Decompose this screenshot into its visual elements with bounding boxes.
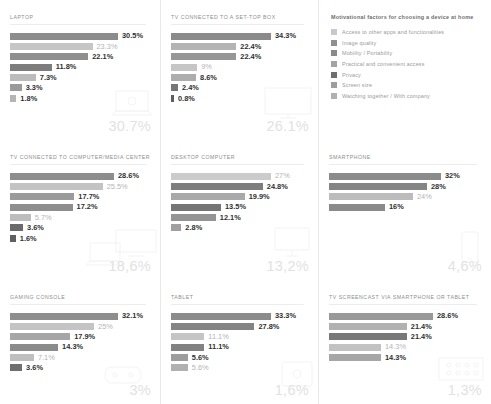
bar-row: 14.3%	[329, 343, 483, 351]
bar-value-label: 5.6%	[192, 354, 209, 361]
bar-row: 8.6%	[171, 74, 310, 82]
bar	[171, 95, 174, 102]
bar	[329, 183, 427, 190]
bar	[171, 74, 196, 81]
bar-row: 7.1%	[10, 354, 152, 362]
chart-panel-laptop: LAPTOP 30.5%23.3%22.1%11.8%7.3%3.3%1.8% …	[0, 0, 160, 140]
panel-title: GAMING CONSOLE	[10, 294, 152, 300]
legend-item: Privacy	[331, 69, 485, 80]
panel-title: TV SCREENCAST VIA SMARTPHONE OR TABLET	[329, 294, 483, 300]
legend-item: Access to other apps and functionalities	[331, 27, 485, 38]
bar-value-label: 23.3%	[97, 43, 118, 50]
panel-big-value: 13,2%	[266, 258, 309, 274]
bar-row: 19.9%	[171, 193, 310, 201]
bar-value-label: 25%	[98, 323, 113, 330]
legend-label: Privacy	[342, 72, 361, 78]
bar-value-label: 22.4%	[240, 43, 261, 50]
bar-row: 14.3%	[10, 343, 152, 351]
panel-title: TABLET	[171, 294, 310, 300]
bar-row: 25.5%	[10, 182, 152, 190]
bar-row: 1.6%	[10, 234, 152, 242]
legend-swatch	[331, 82, 337, 88]
bar	[171, 333, 204, 340]
legend-item: Practical and convenient access	[331, 59, 485, 70]
legend-item: Mobility / Portability	[331, 48, 485, 59]
legend-panel: Motivational factors for choosing a devi…	[318, 0, 491, 140]
bar	[171, 354, 188, 361]
title-divider	[171, 24, 304, 25]
bar-value-label: 14.3%	[385, 354, 406, 361]
bar-value-label: 9%	[201, 63, 212, 70]
legend-swatch	[331, 61, 337, 67]
title-divider	[10, 24, 146, 25]
bar-row: 21.4%	[329, 322, 483, 330]
bar-row: 32.1%	[10, 312, 152, 320]
bar-row: 3.3%	[10, 84, 152, 92]
panel-big-value: 18,6%	[108, 258, 151, 274]
bar-list: 27%24.8%19.9%13.5%12.1%2.8%	[171, 172, 310, 232]
bar-value-label: 16%	[389, 203, 404, 210]
bar-row: 11.1%	[171, 333, 310, 341]
bar-value-label: 7.1%	[38, 354, 55, 361]
bar	[329, 313, 433, 320]
bar-row: 28%	[329, 182, 483, 190]
bar-row: 12.1%	[171, 214, 310, 222]
bar-value-label: 8.6%	[200, 74, 217, 81]
bar-row: 23.3%	[10, 42, 152, 50]
bar	[10, 333, 70, 340]
bar-row: 33.3%	[171, 312, 310, 320]
bar-list: 34.3%22.4%22.4%9%8.6%2.4%0.8%	[171, 32, 310, 102]
panel-title: TV CONNECTED TO A SET-TOP BOX	[171, 14, 310, 20]
title-divider	[171, 164, 304, 165]
bar-row: 3.6%	[10, 224, 152, 232]
bar-value-label: 12.1%	[220, 214, 241, 221]
legend-swatch	[331, 93, 337, 99]
bar-row: 5.6%	[171, 364, 310, 372]
bar-row: 14.3%	[329, 354, 483, 362]
bar	[329, 193, 413, 200]
bar	[171, 183, 263, 190]
panel-title: DESKTOP COMPUTER	[171, 154, 310, 160]
bar	[10, 53, 88, 60]
bar-value-label: 1.8%	[20, 95, 37, 102]
bar-value-label: 11.8%	[56, 63, 77, 70]
bar-value-label: 32%	[445, 172, 460, 179]
bar	[10, 33, 118, 40]
bar-value-label: 27%	[275, 172, 290, 179]
legend-items: Access to other apps and functionalities…	[331, 27, 485, 101]
bar	[329, 204, 385, 211]
bar-value-label: 13.5%	[225, 203, 246, 210]
bar-row: 22.1%	[10, 53, 152, 61]
panel-title: TV CONNECTED TO COMPUTER/MEDIA CENTER	[10, 154, 152, 160]
bar-row: 17.2%	[10, 203, 152, 211]
legend-label: Screen size	[342, 82, 372, 88]
panel-big-value: 26.1%	[266, 118, 309, 134]
legend-swatch	[331, 29, 337, 35]
bar-row: 24.8%	[171, 182, 310, 190]
bar-value-label: 17.2%	[77, 203, 98, 210]
bar-list: 28.6%25.5%17.7%17.2%5.7%3.6%1.6%	[10, 172, 152, 242]
bar-value-label: 5.6%	[192, 364, 209, 371]
bar	[10, 173, 114, 180]
bar-value-label: 25.5%	[107, 183, 128, 190]
legend-label: Practical and convenient access	[342, 61, 425, 67]
chart-panel-desktop-computer: DESKTOP COMPUTER 27%24.8%19.9%13.5%12.1%…	[160, 140, 318, 280]
bar-value-label: 32.1%	[122, 312, 143, 319]
bar-row: 0.8%	[171, 94, 310, 102]
bar-value-label: 22.4%	[240, 53, 261, 60]
chart-panel-tv-screencast: TV SCREENCAST VIA SMARTPHONE OR TABLET 2…	[318, 280, 491, 404]
bar	[171, 173, 271, 180]
bar-value-label: 11.1%	[208, 333, 228, 340]
bar-row: 1.8%	[10, 94, 152, 102]
bar-row: 34.3%	[171, 32, 310, 40]
legend-item: Screen size	[331, 80, 485, 91]
legend-item: Image quality	[331, 38, 485, 49]
bar-row: 7.3%	[10, 74, 152, 82]
bar	[10, 323, 94, 330]
bar	[171, 313, 271, 320]
panel-big-value: 3%	[129, 382, 151, 398]
bar-value-label: 28%	[431, 183, 446, 190]
panel-title: LAPTOP	[10, 14, 152, 20]
bar	[10, 354, 34, 361]
bar-value-label: 0.8%	[178, 95, 195, 102]
